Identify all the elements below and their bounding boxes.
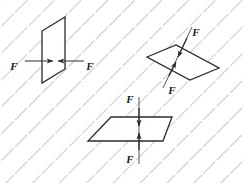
figure-canvas: F F F F F F (0, 0, 244, 195)
horizontal-plane-force-label-bottom: F (125, 153, 134, 165)
hatch-overlay (0, 0, 244, 195)
left-plane-force-label-left: F (9, 60, 18, 72)
horizontal-plane-force-label-top: F (125, 93, 134, 105)
inclined-plane-force-label-upper: F (191, 26, 200, 38)
inclined-plane-force-label-lower: F (167, 84, 176, 96)
left-plane-force-label-right: F (85, 60, 94, 72)
bottom-white-margin (0, 183, 244, 195)
force-on-planes-diagram: F F F F F F (0, 0, 244, 195)
